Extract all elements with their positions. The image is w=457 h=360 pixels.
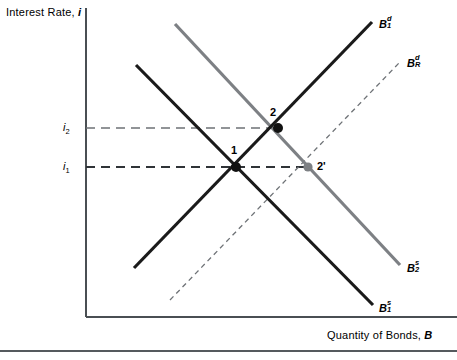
equilibrium-point-2 <box>273 123 283 133</box>
curve-bond-demand-real <box>170 62 400 300</box>
equilibrium-label-2: 2 <box>270 107 276 118</box>
curve-label-B2s: B s 2 <box>407 261 421 274</box>
y-axis-title-text: Interest Rate, <box>6 6 78 18</box>
curve-label-BRd-subscript: R <box>415 61 420 69</box>
curve-label-B1d: B d 1 <box>379 17 393 30</box>
y-tick-label-i2: i2 <box>63 122 70 136</box>
equilibrium-point-1 <box>231 162 241 172</box>
y-axis-title: Interest Rate, i <box>6 7 81 18</box>
curve-label-B1s-subscript: 1 <box>387 306 391 314</box>
equilibrium-label-2-prime: 2' <box>317 161 326 172</box>
y-tick-i1-subscript: 1 <box>65 166 69 175</box>
equilibrium-point-2-prime <box>303 162 312 171</box>
x-axis-title-text: Quantity of Bonds, <box>327 329 424 341</box>
curve-label-BRd: B d R <box>407 56 421 69</box>
bond-market-diagram: Interest Rate, i Quantity of Bonds, B i2… <box>0 0 457 360</box>
curve-bond-supply-1 <box>136 65 373 305</box>
x-axis-title-variable: B <box>424 329 432 341</box>
curve-label-BRd-base: B <box>407 57 415 69</box>
footer-divider <box>0 350 457 352</box>
y-axis-title-variable: i <box>78 6 81 18</box>
y-tick-label-i1: i1 <box>63 161 70 175</box>
curve-bond-supply-2 <box>175 24 400 265</box>
curve-label-B1d-base: B <box>379 18 387 30</box>
y-tick-i2-subscript: 2 <box>65 127 69 136</box>
curve-label-B2s-base: B <box>407 262 415 274</box>
curve-bond-demand-1 <box>134 22 372 268</box>
curve-label-B1s: B s 1 <box>379 301 393 314</box>
curve-label-B1d-subscript: 1 <box>387 22 391 30</box>
curve-label-B1s-base: B <box>379 302 387 314</box>
curve-label-B2s-subscript: 2 <box>415 266 419 274</box>
equilibrium-label-1: 1 <box>231 145 237 156</box>
x-axis-title: Quantity of Bonds, B <box>327 330 433 341</box>
